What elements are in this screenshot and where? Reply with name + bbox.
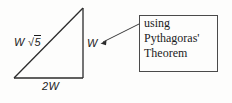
- diagram-canvas: W √5 W 2W using Pythagoras' Theorem: [0, 0, 232, 103]
- callout-line-3: Theorem: [144, 46, 220, 61]
- callout-text: using Pythagoras' Theorem: [144, 16, 220, 61]
- callout-arrowhead-icon: [101, 40, 107, 45]
- callout-line-2: Pythagoras': [144, 31, 220, 46]
- callout-leader-line: [103, 24, 139, 42]
- hypotenuse-coefficient: W: [14, 36, 25, 48]
- callout-line-1: using: [144, 16, 220, 31]
- hypotenuse-label: W √5: [14, 36, 41, 48]
- base-side-label: 2W: [42, 80, 59, 92]
- hypotenuse-radicand: 5: [34, 35, 40, 48]
- vertical-side-label: W: [87, 37, 98, 49]
